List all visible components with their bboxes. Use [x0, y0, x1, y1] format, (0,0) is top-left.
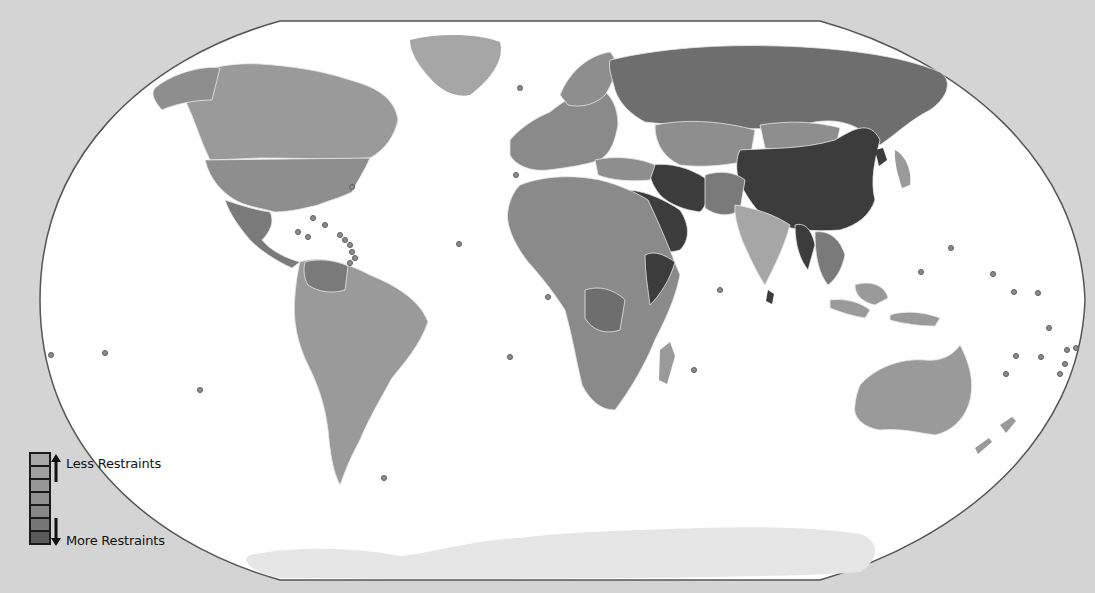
legend-swatch-7: [31, 532, 49, 543]
legend-swatch-4: [31, 493, 49, 504]
legend-color-scale: [29, 452, 51, 545]
legend-swatch-1: [31, 454, 49, 465]
arrow-down-icon: [51, 518, 61, 546]
legend-swatch-3: [31, 480, 49, 491]
legend-bottom-label: More Restraints: [66, 533, 165, 548]
legend-top-label: Less Restraints: [66, 456, 161, 471]
legend: Less Restraints More Restraints: [29, 452, 229, 552]
arrow-up-icon: [51, 454, 61, 482]
legend-swatch-2: [31, 467, 49, 478]
legend-swatch-5: [31, 506, 49, 517]
drc: [585, 288, 625, 332]
legend-swatch-6: [31, 519, 49, 530]
